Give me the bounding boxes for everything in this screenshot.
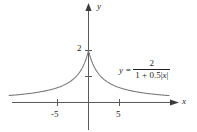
function-graph-figure: y x -5 5 2 y = 2 1 + 0.5|x|	[0, 0, 197, 132]
equation-lhs: y =	[119, 65, 133, 75]
y-axis-label: y	[97, 2, 101, 11]
equation-denominator: 1 + 0.5|x|	[133, 69, 170, 80]
equation-abs-bar-close: |	[166, 70, 168, 80]
x-axis-label: x	[182, 97, 186, 106]
equation-fraction: 2 1 + 0.5|x|	[133, 59, 170, 80]
equation-numerator: 2	[147, 59, 158, 69]
y-tick-label-2: 2	[77, 44, 82, 53]
x-tick-label-neg5: -5	[51, 110, 59, 119]
y-axis-arrowhead	[85, 3, 91, 11]
equation-denominator-constant: 1 + 0.5	[135, 70, 160, 80]
x-axis-arrowhead	[170, 99, 179, 105]
x-tick-label-pos5: 5	[116, 110, 121, 119]
equation-annotation: y = 2 1 + 0.5|x|	[119, 59, 170, 80]
